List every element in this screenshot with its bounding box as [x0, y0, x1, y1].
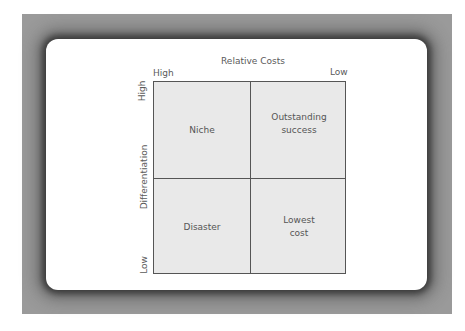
x-axis-title: Relative Costs [221, 56, 285, 66]
y-axis-title: Differentiation [139, 145, 149, 210]
y-axis-low-label: Low [139, 256, 149, 274]
quadrant-label-line2: success [281, 124, 316, 137]
quadrant-niche: Niche [154, 82, 250, 178]
quadrant-label: Disaster [183, 221, 220, 234]
quadrant-lowest-cost: Lowest cost [251, 179, 347, 275]
quadrant-grid: Niche Outstanding success Disaster Lowes… [153, 81, 346, 274]
x-axis-high-label: High [153, 68, 174, 78]
quadrant-label-line2: cost [290, 227, 309, 240]
quadrant-disaster: Disaster [154, 179, 250, 275]
quadrant-outstanding-success: Outstanding success [251, 76, 347, 172]
y-axis-high-label: High [137, 81, 147, 102]
quadrant-label-line1: Outstanding [271, 111, 326, 124]
quadrant-label: Niche [189, 124, 214, 137]
quadrant-label-line1: Lowest [283, 214, 314, 227]
